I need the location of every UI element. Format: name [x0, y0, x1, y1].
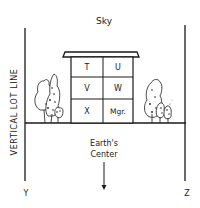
- down-arrow-icon: [102, 162, 107, 190]
- tree-icon-left: [35, 74, 63, 123]
- building: T U V W X Mgr.: [63, 52, 139, 123]
- unit-t: T: [84, 63, 90, 72]
- corner-label-y: Y: [23, 189, 29, 198]
- vertical-lot-line-label: VERTICAL LOT LINE: [10, 69, 19, 156]
- earth-center-label-line2: Center: [91, 150, 119, 159]
- building-roof: [63, 52, 139, 57]
- lot-diagram: Sky VERTICAL LOT LINE T U V W X Mgr.: [0, 0, 200, 208]
- sky-label: Sky: [96, 16, 113, 26]
- corner-label-z: Z: [184, 189, 190, 198]
- earth-center-label-line1: Earth's: [90, 139, 118, 148]
- unit-x: X: [84, 107, 90, 116]
- unit-v: V: [84, 84, 90, 93]
- unit-u: U: [115, 63, 121, 72]
- unit-mgr: Mgr.: [110, 107, 126, 116]
- tree-icon-right: [145, 79, 173, 123]
- unit-w: W: [114, 84, 122, 93]
